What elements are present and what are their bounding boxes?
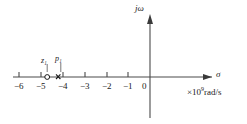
plot-canvas: [0, 0, 247, 124]
units-mantissa: 10: [192, 87, 201, 97]
x-tick-label--1: −1: [123, 82, 133, 91]
x-tick-label--3: −3: [80, 82, 90, 91]
zero-label-z1: z₁: [41, 57, 47, 65]
x-tick-marks: [19, 72, 128, 77]
marker-leader-lines: [47, 63, 61, 72]
sigma-axis-label: σ: [216, 70, 220, 79]
x-tick-label--5: −5: [36, 82, 46, 91]
units-label: ×109rad/s: [187, 86, 222, 97]
x-tick-label--4: −4: [58, 82, 68, 91]
pole-zero-plot: −6 −5 −4 −3 −2 −1 0 jω σ z₁ p₁ ×109rad/s: [0, 0, 247, 124]
sigma-axis-arrowhead: [203, 74, 212, 80]
x-tick-label-0: 0: [142, 82, 147, 91]
zero-marker-z1: [45, 75, 50, 80]
units-suffix: rad/s: [204, 87, 222, 97]
pole-label-p1: p₁: [55, 55, 62, 63]
jomega-axis-label: jω: [135, 4, 144, 13]
jomega-axis-arrowhead: [147, 14, 153, 24]
x-tick-label--2: −2: [102, 82, 112, 91]
x-tick-label--6: −6: [14, 82, 24, 91]
